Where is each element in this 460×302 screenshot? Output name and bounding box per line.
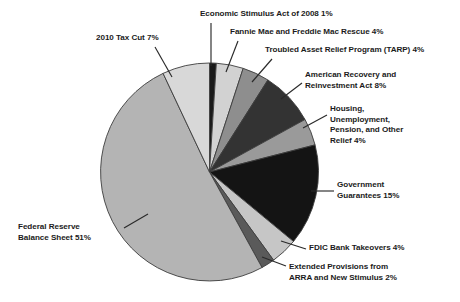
pie-label-tarp: Troubled Asset Relief Program (TARP) 4%	[265, 45, 424, 56]
pie-label-2010-tax-cut: 2010 Tax Cut 7%	[96, 33, 159, 44]
pie-label-government-guarantees: Government Guarantees 15%	[337, 180, 433, 201]
pie-label-federal-reserve-balance-sheet: Federal Reserve Balance Sheet 51%	[18, 222, 122, 243]
leader-line-american-recovery	[281, 83, 302, 99]
pie-label-fannie-mae-freddie-mac: Fannie Mae and Freddie Mac Rescue 4%	[230, 27, 383, 38]
pie-label-american-recovery: American Recovery and Reinvestment Act 8…	[305, 70, 409, 91]
pie-chart-figure: Economic Stimulus Act of 2008 1% Fannie …	[0, 0, 460, 302]
pie-label-economic-stimulus: Economic Stimulus Act of 2008 1%	[200, 9, 333, 20]
pie-label-extended-provisions: Extended Provisions from ARRA and New St…	[289, 262, 439, 283]
pie-label-fdic-bank-takeovers: FDIC Bank Takeovers 4%	[309, 243, 404, 254]
leader-line-tax-cut	[155, 47, 172, 77]
pie-label-housing-relief: Housing, Unemployment, Pension, and Othe…	[330, 104, 418, 146]
